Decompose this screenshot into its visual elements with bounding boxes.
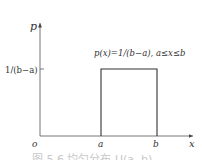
formula-label: p(x)=1/(b−a), a≤x≤b: [94, 48, 185, 58]
x-tick-label-a: a: [98, 139, 103, 149]
uniform-distribution-diagram: p x o 1/(b−a) a b p(x)=1/(b−a), a≤x≤b 图 …: [0, 0, 202, 160]
x-tick-label-b: b: [153, 139, 159, 149]
x-axis-label: x: [189, 138, 195, 149]
figure-caption: 图 5.6 均匀分布 U(a, b): [32, 153, 152, 160]
y-axis-label: p: [30, 20, 37, 33]
pdf-rectangle: [101, 69, 157, 136]
origin-label: o: [32, 139, 38, 149]
y-tick-label: 1/(b−a): [5, 65, 38, 75]
